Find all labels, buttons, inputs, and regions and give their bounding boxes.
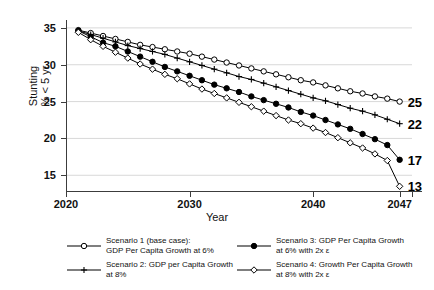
legend-swatch — [236, 239, 272, 253]
legend-marker-plus — [66, 263, 102, 277]
data-point-plus — [186, 59, 192, 65]
data-point-plus — [310, 95, 316, 101]
data-point-open-diamond — [149, 66, 155, 72]
data-point-open-diamond — [298, 120, 304, 126]
legend-item-1[interactable]: Scenario 1 (base case): GDP Per Capita G… — [66, 236, 236, 260]
y-tick — [61, 175, 66, 176]
data-point-open-diamond — [199, 86, 205, 92]
data-point-plus — [298, 91, 304, 97]
x-tick — [400, 192, 401, 197]
x-tick — [190, 192, 191, 197]
series-end-label-1: 25 — [408, 96, 422, 109]
x-tick — [66, 192, 67, 197]
x-axis-label: Year — [167, 211, 267, 223]
data-point-filled-circle — [273, 101, 278, 106]
data-point-filled-circle — [298, 109, 303, 114]
y-axis-line — [66, 20, 67, 192]
legend-swatch — [66, 263, 102, 277]
data-point-open-diamond — [174, 76, 180, 82]
data-point-filled-circle — [251, 243, 256, 248]
data-point-open-circle — [273, 72, 278, 77]
data-point-open-circle — [162, 47, 167, 52]
x-tick-label: 2040 — [291, 199, 335, 210]
data-point-open-circle — [212, 57, 217, 62]
data-point-filled-circle — [162, 64, 167, 69]
data-point-plus — [397, 121, 403, 127]
data-point-plus — [359, 108, 365, 114]
data-point-open-diamond — [261, 108, 267, 114]
y-tick — [61, 28, 66, 29]
data-point-filled-circle — [360, 131, 365, 136]
legend-label: Scenario 3: GDP Per Capita Growth at 6% … — [276, 236, 404, 255]
legend-item-4[interactable]: Scenario 4: Growth Per Capita Growth at … — [236, 260, 426, 284]
legend-label: Scenario 2: GDP per Capita Growth at 8% — [106, 260, 233, 279]
data-point-filled-circle — [224, 86, 229, 91]
data-point-plus — [347, 105, 353, 111]
legend-marker-filled-circle — [236, 239, 272, 253]
legend-swatch — [236, 263, 272, 277]
data-point-open-diamond — [396, 183, 402, 189]
x-tick — [313, 192, 314, 197]
data-point-open-circle — [224, 60, 229, 65]
data-point-filled-circle — [310, 113, 315, 118]
y-tick — [61, 102, 66, 103]
data-point-filled-circle — [385, 142, 390, 147]
legend-item-3[interactable]: Scenario 3: GDP Per Capita Growth at 6% … — [236, 236, 426, 260]
data-point-filled-circle — [323, 117, 328, 122]
legend-item-2[interactable]: Scenario 2: GDP per Capita Growth at 8% — [66, 260, 236, 284]
legend-marker-open-diamond — [236, 263, 272, 277]
data-point-open-circle — [310, 80, 315, 85]
data-point-filled-circle — [199, 78, 204, 83]
series-end-label-2: 22 — [408, 118, 422, 131]
legend-marker-open-circle — [66, 239, 102, 253]
series-2 — [75, 28, 402, 127]
data-point-open-diamond — [211, 90, 217, 96]
data-point-open-diamond — [273, 112, 279, 118]
data-point-open-circle — [397, 99, 402, 104]
legend-column-right: Scenario 3: GDP Per Capita Growth at 6% … — [236, 236, 426, 284]
legend-label: Scenario 1 (base case): GDP Per Capita G… — [106, 236, 214, 255]
data-point-filled-circle — [212, 82, 217, 87]
series-end-label-3: 17 — [408, 154, 422, 167]
data-point-open-circle — [81, 243, 86, 248]
data-point-open-diamond — [137, 61, 143, 67]
data-point-plus — [236, 73, 242, 79]
chart-root: 1520253035 2020203020402047 25221713 Stu… — [0, 0, 434, 290]
x-axis-line — [66, 191, 422, 192]
data-point-plus — [273, 84, 279, 90]
x-tick-label: 2030 — [168, 199, 212, 210]
data-point-plus — [248, 76, 254, 82]
data-point-open-diamond — [236, 99, 242, 105]
data-point-filled-circle — [372, 136, 377, 141]
data-point-open-circle — [286, 75, 291, 80]
data-point-open-diamond — [112, 49, 118, 55]
data-point-filled-circle — [249, 94, 254, 99]
data-point-open-circle — [175, 49, 180, 54]
data-point-plus — [81, 267, 87, 273]
data-point-open-diamond — [223, 95, 229, 101]
data-point-plus — [199, 62, 205, 68]
series-end-label-4: 13 — [408, 180, 422, 193]
data-point-open-diamond — [372, 151, 378, 157]
plot-area — [66, 22, 412, 190]
data-point-open-diamond — [347, 140, 353, 146]
data-point-open-diamond — [384, 157, 390, 163]
data-point-open-circle — [323, 83, 328, 88]
legend-column-left: Scenario 1 (base case): GDP Per Capita G… — [66, 236, 236, 284]
data-point-plus — [384, 116, 390, 122]
data-point-plus — [285, 87, 291, 93]
series-line — [78, 32, 399, 186]
data-point-open-circle — [348, 89, 353, 94]
data-point-open-circle — [187, 51, 192, 56]
legend-swatch — [66, 239, 102, 253]
data-point-plus — [174, 55, 180, 61]
data-point-open-diamond — [322, 129, 328, 135]
data-point-open-diamond — [359, 145, 365, 151]
data-point-open-diamond — [125, 55, 131, 61]
data-point-filled-circle — [348, 126, 353, 131]
data-point-filled-circle — [261, 97, 266, 102]
data-point-plus — [372, 112, 378, 118]
data-point-open-diamond — [310, 125, 316, 131]
data-point-filled-circle — [187, 73, 192, 78]
stunting-projection-chart: 1520253035 2020203020402047 25221713 Stu… — [0, 0, 434, 232]
